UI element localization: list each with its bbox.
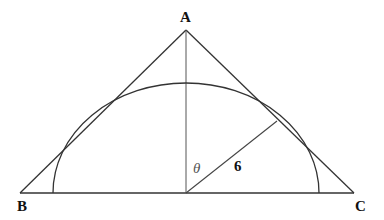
label-radius-length: 6 [234,158,242,174]
label-a: A [180,9,191,25]
side-ac [186,30,354,193]
side-ab [20,30,186,193]
geometry-diagram: A B C θ 6 [0,0,384,220]
label-theta: θ [193,160,201,176]
label-c: C [355,198,366,214]
label-b: B [17,198,27,214]
radius [186,121,277,193]
